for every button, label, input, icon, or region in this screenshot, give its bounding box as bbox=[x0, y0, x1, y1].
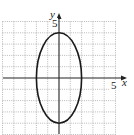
x-axis-label: x bbox=[121, 76, 127, 88]
ellipse-graph: 5 x 5 y bbox=[0, 0, 134, 135]
y-axis-label: y bbox=[49, 8, 55, 20]
x-tick-label: 5 bbox=[111, 79, 117, 91]
axes bbox=[3, 13, 127, 134]
